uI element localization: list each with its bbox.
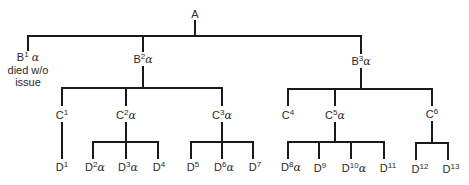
tree-connector-lines [0,0,469,185]
node-d10: D10α [341,162,367,175]
node-d5-sup: 5 [195,160,199,169]
node-c2-letter: C [116,109,124,121]
node-d5: D5 [186,161,200,173]
node-d7-letter: D [249,161,257,173]
node-d1: D1 [55,161,69,173]
alpha-mark: α [97,161,104,174]
node-d6: D6α [213,161,235,174]
node-d4-sup: 4 [161,160,165,169]
node-d10-sup: 10 [350,161,359,170]
node-d11-sup: 11 [388,161,396,170]
alpha-mark: α [293,161,300,174]
alpha-mark: α [130,161,137,174]
node-c4-letter: C [282,109,290,121]
node-b1-note-line1: died w/o [8,64,49,76]
node-d1-letter: D [56,161,64,173]
node-d9-letter: D [314,162,322,174]
node-b1: B1 α died w/o issue [7,51,50,88]
node-b1-letter: B [17,51,24,63]
alpha-mark: α [226,161,233,174]
node-d12-sup: 12 [420,162,429,171]
node-d13-letter: D [443,163,451,175]
node-c1-letter: C [56,109,64,121]
node-c4-sup: 4 [290,108,294,117]
node-a: A [190,8,199,20]
node-d11-letter: D [380,162,388,174]
node-d1-sup: 1 [64,160,68,169]
node-d13-sup: 13 [451,162,460,171]
node-c1: C1 [55,109,69,121]
node-d13: D13 [442,163,461,175]
node-c5-letter: C [325,109,333,121]
node-d4-letter: D [153,161,161,173]
node-c3-letter: C [212,109,220,121]
node-d8-letter: D [281,161,289,173]
node-c4: C4 [281,109,295,121]
node-c5: C5α [324,109,346,122]
alpha-mark: α [128,109,135,122]
alpha-mark: α [32,51,39,64]
node-c6-letter: C [426,108,434,120]
alpha-mark: α [224,109,231,122]
node-c1-sup: 1 [64,108,68,117]
node-d2: D2α [84,161,106,174]
node-d8: D8α [280,161,302,174]
node-b1-note-line2: issue [8,76,49,88]
node-d7-sup: 7 [257,160,261,169]
node-c6-sup: 6 [434,107,438,116]
node-d10-letter: D [342,162,350,174]
node-d3-letter: D [118,161,126,173]
node-b2: B2α [132,53,153,66]
node-d7: D7 [248,161,262,173]
alpha-mark: α [145,53,152,66]
node-c2: C2α [115,109,137,122]
node-c3: C3α [211,109,233,122]
node-a-label: A [191,8,198,20]
node-d6-letter: D [214,161,222,173]
node-d9-sup: 9 [322,161,326,170]
node-d5-letter: D [187,161,195,173]
node-d9: D9 [313,162,327,174]
node-d11: D11 [379,162,397,174]
node-d3: D3α [117,161,139,174]
node-d2-letter: D [85,161,93,173]
node-b1-sup: 1 [24,50,28,59]
node-d12-letter: D [412,163,420,175]
node-d4: D4 [152,161,166,173]
node-c6: C6 [425,108,439,120]
node-d12: D12 [411,163,430,175]
alpha-mark: α [359,162,366,175]
alpha-mark: α [363,55,370,68]
alpha-mark: α [337,109,344,122]
node-b3: B3α [350,55,371,68]
